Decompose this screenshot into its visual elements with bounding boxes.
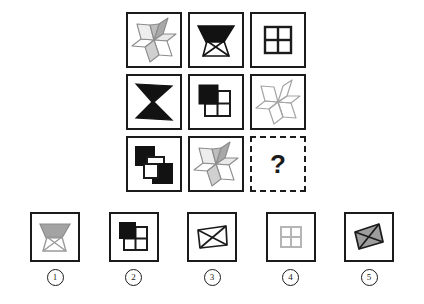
- answer-option-1[interactable]: 1: [30, 212, 80, 286]
- option-2-figure[interactable]: [109, 212, 159, 262]
- matrix-cell-r1c2[interactable]: [188, 12, 244, 68]
- question-mark: ?: [270, 151, 286, 177]
- bowtie-top-filled-black-icon: [190, 14, 242, 66]
- matrix-cell-r1c3[interactable]: [250, 12, 306, 68]
- bowtie-solid-black-icon: [128, 76, 180, 128]
- answer-option-2[interactable]: 2: [109, 212, 159, 286]
- option-2-number: 2: [125, 269, 142, 286]
- answer-option-3[interactable]: 3: [187, 212, 237, 286]
- matrix-cell-r2c2[interactable]: [188, 74, 244, 130]
- bowtie-top-filled-gray-icon: [32, 214, 78, 260]
- six-point-star-shaded-icon: [128, 14, 180, 66]
- matrix-cell-r3c2[interactable]: [188, 136, 244, 192]
- option-3-number: 3: [204, 269, 221, 286]
- quad-diagonals-white-icon: [189, 214, 235, 260]
- question-matrix: ?: [126, 12, 306, 192]
- answer-option-5[interactable]: 5: [344, 212, 394, 286]
- option-3-figure[interactable]: [187, 212, 237, 262]
- grid-black-offset-square-icon: [111, 214, 157, 260]
- six-point-star-outline-icon: [252, 76, 304, 128]
- option-1-figure[interactable]: [30, 212, 80, 262]
- answer-option-4[interactable]: 4: [266, 212, 316, 286]
- four-pane-grid-light-icon: [268, 214, 314, 260]
- two-offset-black-squares-icon: [128, 138, 180, 190]
- six-point-star-shaded-icon: [190, 138, 242, 190]
- option-4-number: 4: [282, 269, 299, 286]
- grid-black-offset-square-icon: [190, 76, 242, 128]
- answer-options: 1 2: [30, 212, 394, 286]
- option-5-number: 5: [361, 269, 378, 286]
- matrix-cell-r3c1[interactable]: [126, 136, 182, 192]
- matrix-cell-r2c1[interactable]: [126, 74, 182, 130]
- option-4-figure[interactable]: [266, 212, 316, 262]
- matrix-cell-unknown[interactable]: ?: [250, 136, 306, 192]
- matrix-cell-r1c1[interactable]: [126, 12, 182, 68]
- matrix-cell-r2c3[interactable]: [250, 74, 306, 130]
- quad-diagonals-gray-icon: [346, 214, 392, 260]
- option-1-number: 1: [47, 269, 64, 286]
- four-pane-grid-icon: [252, 14, 304, 66]
- option-5-figure[interactable]: [344, 212, 394, 262]
